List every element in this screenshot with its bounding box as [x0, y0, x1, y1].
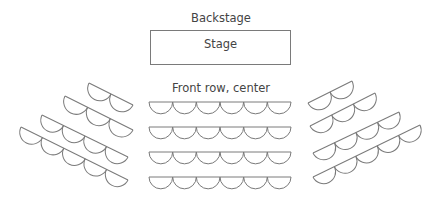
- seat: [173, 102, 197, 114]
- seat: [101, 169, 128, 190]
- seat: [149, 152, 173, 164]
- seat: [101, 147, 128, 168]
- seat: [267, 102, 291, 114]
- seat: [378, 112, 405, 133]
- seat: [196, 102, 220, 114]
- seat: [244, 102, 268, 114]
- seat: [220, 127, 244, 139]
- right-row-1: [308, 81, 358, 114]
- seat: [267, 152, 291, 164]
- seat: [399, 125, 426, 146]
- seat: [196, 152, 220, 164]
- seat: [16, 127, 43, 148]
- seat: [356, 146, 383, 167]
- seat: [58, 126, 85, 147]
- seating-diagram: Backstage Stage Front row, center: [0, 0, 440, 199]
- right-row-4: [313, 125, 425, 188]
- seat: [220, 177, 244, 189]
- seat: [149, 102, 173, 114]
- seat: [105, 119, 133, 142]
- seat: [313, 143, 340, 164]
- seat: [313, 167, 340, 188]
- center-row-1: [149, 102, 291, 114]
- seat: [335, 133, 362, 154]
- seat: [267, 127, 291, 139]
- center-row-3: [149, 152, 291, 164]
- seat: [330, 81, 358, 103]
- seat: [173, 127, 197, 139]
- seat: [244, 177, 268, 189]
- seat: [220, 152, 244, 164]
- seat: [173, 177, 197, 189]
- seat: [82, 107, 110, 130]
- seat: [80, 136, 107, 157]
- seat: [149, 177, 173, 189]
- seat: [196, 177, 220, 189]
- left-row-2: [59, 96, 133, 141]
- seat: [149, 127, 173, 139]
- seat: [310, 115, 337, 137]
- left-row-1: [84, 83, 134, 116]
- seat: [173, 152, 197, 164]
- center-row-2: [149, 127, 291, 139]
- seat: [356, 122, 383, 143]
- seat: [84, 83, 112, 105]
- seat: [37, 115, 64, 136]
- seat: [267, 177, 291, 189]
- seat: [80, 159, 107, 180]
- seat: [106, 94, 134, 116]
- seat: [196, 127, 220, 139]
- seat: [334, 156, 361, 177]
- seat: [220, 102, 244, 114]
- seat: [37, 138, 64, 159]
- left-row-4: [16, 127, 128, 191]
- seat: [377, 135, 404, 156]
- seat: [244, 152, 268, 164]
- right-row-3: [313, 112, 404, 164]
- seat: [59, 148, 86, 169]
- seats-layer: [0, 0, 440, 199]
- seat: [59, 96, 87, 119]
- seat: [244, 127, 268, 139]
- seat: [353, 93, 380, 115]
- seat: [332, 104, 359, 126]
- right-row-2: [310, 93, 381, 137]
- seat: [308, 92, 336, 114]
- center-row-4: [149, 177, 291, 189]
